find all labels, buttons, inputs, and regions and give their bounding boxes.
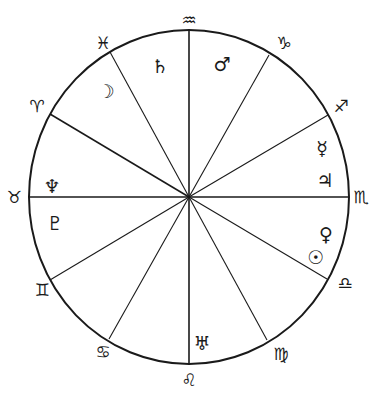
sign-cancer-icon: ♋ [95,344,110,361]
sign-capricorn-icon: ♑ [276,35,291,52]
sign-leo-icon: ♌ [181,372,196,389]
sign-taurus-icon: ♉ [6,189,21,206]
house-spokes [29,30,349,364]
spoke-pisces [110,52,189,197]
sign-sagittarius-icon: ♐ [333,98,348,115]
sign-aquarius-icon: ♒ [181,12,196,29]
planet-saturn-icon: ♄ [151,57,168,76]
planet-mercury-icon: ☿ [316,139,328,158]
planet-pluto-icon: ♇ [46,214,63,233]
spoke-libra [189,197,327,279]
planet-venus-icon: ♀ [319,225,333,244]
spoke-sagittarius [189,115,328,197]
sign-gemini-icon: ♊ [34,282,49,299]
spoke-gemini [50,197,189,280]
spoke-aries [50,114,189,197]
planet-jupiter-icon: ♃ [316,171,333,190]
sign-libra-icon: ♎ [337,275,352,292]
sign-pisces-icon: ♓ [95,35,110,52]
planet-uranus-icon: ♅ [193,334,210,353]
planet-neptune-icon: ♆ [43,177,60,196]
planet-sun-icon: ☉ [307,248,324,267]
spoke-capricorn [189,55,269,197]
planet-moon-icon: ☽ [97,82,114,101]
sign-virgo-icon: ♍ [273,346,288,363]
house-chart-wheel [0,0,377,396]
sign-scorpio-icon: ♏ [353,189,368,206]
spoke-virgo [189,197,267,340]
planet-mars-icon: ♂ [213,55,230,74]
sign-aries-icon: ♈ [29,98,44,115]
spoke-cancer [109,197,189,339]
